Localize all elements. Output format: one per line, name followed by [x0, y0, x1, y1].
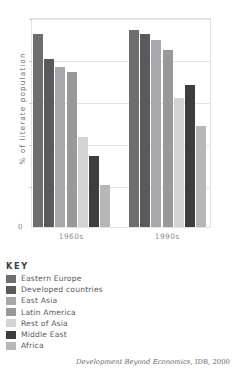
literacy-bar-chart: % of literate population 20406080100 196…	[0, 0, 234, 258]
chart-legend: KEY Eastern EuropeDeveloped countriesEas…	[6, 261, 166, 351]
source-publication: Development Beyond Economics	[76, 358, 190, 366]
source-attribution: , IDB, 2000	[190, 358, 230, 366]
bar	[67, 72, 77, 227]
bar	[44, 59, 54, 227]
legend-color-swatch	[6, 275, 16, 283]
legend-item: East Asia	[6, 295, 166, 306]
bar	[174, 98, 184, 227]
legend-item: Rest of Asia	[6, 318, 166, 329]
bar	[196, 126, 206, 227]
y-axis-title: % of literate population	[18, 34, 27, 184]
legend-item-label: Rest of Asia	[21, 319, 68, 328]
legend-color-swatch	[6, 331, 16, 339]
bar	[100, 185, 110, 227]
axis-origin-label: 0	[18, 222, 23, 231]
bar	[55, 67, 65, 227]
legend-color-swatch	[6, 297, 16, 305]
bar	[163, 50, 173, 227]
legend-items: Eastern EuropeDeveloped countriesEast As…	[6, 273, 166, 351]
legend-item: Africa	[6, 340, 166, 351]
bar	[33, 34, 43, 227]
x-tick-label: 1990s	[128, 232, 206, 241]
bar	[129, 30, 139, 227]
bar	[151, 40, 161, 227]
plot-area	[31, 18, 211, 228]
legend-title: KEY	[6, 261, 166, 271]
legend-color-swatch	[6, 319, 16, 327]
legend-item-label: Middle East	[21, 330, 67, 339]
legend-color-swatch	[6, 342, 16, 350]
legend-item-label: Africa	[21, 341, 44, 350]
bars-layer	[32, 19, 210, 227]
bar	[89, 156, 99, 227]
legend-color-swatch	[6, 308, 16, 316]
bar	[185, 85, 195, 227]
x-tick-label: 1960s	[32, 232, 110, 241]
bar	[140, 34, 150, 227]
legend-item-label: East Asia	[21, 296, 57, 305]
legend-item: Eastern Europe	[6, 273, 166, 284]
legend-item-label: Latin America	[21, 308, 76, 317]
legend-item: Developed countries	[6, 284, 166, 295]
legend-item-label: Developed countries	[21, 285, 103, 294]
legend-item: Middle East	[6, 329, 166, 340]
bar	[78, 137, 88, 227]
legend-item: Latin America	[6, 307, 166, 318]
source-citation: Development Beyond Economics, IDB, 2000	[76, 358, 230, 366]
legend-item-label: Eastern Europe	[21, 274, 82, 283]
legend-color-swatch	[6, 286, 16, 294]
